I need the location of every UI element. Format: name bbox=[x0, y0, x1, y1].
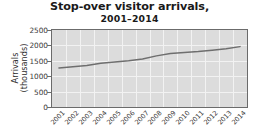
series-line-stop-over-visitor-arrivals bbox=[59, 47, 240, 68]
x-axis-tick-label: 2003 bbox=[77, 109, 95, 127]
x-axis-tick-label: 2005 bbox=[105, 109, 123, 127]
x-axis-tick-label: 2001 bbox=[49, 109, 67, 127]
plot-area bbox=[51, 29, 248, 108]
x-axis-tick-label: 2012 bbox=[202, 109, 220, 127]
y-axis-tick-label: 1000 bbox=[18, 72, 48, 81]
x-axis-tick-label: 2006 bbox=[119, 109, 137, 127]
y-axis-tick-label: 0 bbox=[18, 103, 48, 112]
y-axis-tick-labels: 25002000150010005000 bbox=[18, 0, 48, 140]
x-axis-tick-label: 2004 bbox=[91, 109, 109, 127]
x-axis-tick-label: 2002 bbox=[63, 109, 81, 127]
x-axis-tick-labels: 2001200220032004200520062007200820092010… bbox=[51, 109, 248, 140]
data-series-line bbox=[52, 30, 247, 107]
y-axis-tick-label: 1500 bbox=[18, 56, 48, 65]
y-axis-tick-label: 2500 bbox=[18, 26, 48, 35]
chart-container: Stop-over visitor arrivals, 2001–2014 Ar… bbox=[0, 0, 259, 140]
x-axis-tick-label: 2013 bbox=[216, 109, 234, 127]
y-axis-tick-label: 500 bbox=[18, 87, 48, 96]
x-axis-tick-label: 2014 bbox=[230, 109, 248, 127]
y-axis-tick-label: 2000 bbox=[18, 41, 48, 50]
